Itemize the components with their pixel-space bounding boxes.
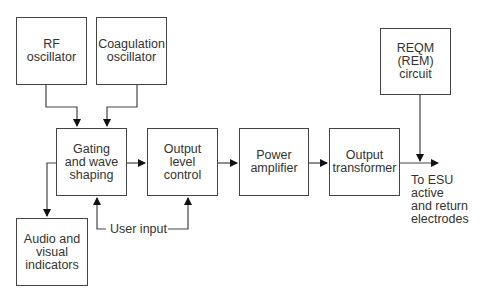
power-amplifier-label: Power amplifier xyxy=(250,149,297,175)
output-transformer-label: Output transformer xyxy=(333,149,397,175)
output-destination-label: To ESU active and return electrodes xyxy=(411,174,489,226)
power-amplifier-block: Power amplifier xyxy=(239,128,309,196)
output-transformer-block: Output transformer xyxy=(329,128,400,196)
coagulation-oscillator-label: Coagulation oscillator xyxy=(98,38,165,64)
rf-oscillator-block: RF oscillator xyxy=(16,17,87,85)
output-level-block: Output level control xyxy=(147,128,218,196)
output-level-label: Output level control xyxy=(164,143,202,182)
reqm-block: REQM (REM) circuit xyxy=(380,28,451,95)
user-input-label: User input xyxy=(110,223,167,236)
rf-oscillator-label: RF oscillator xyxy=(27,38,76,64)
reqm-label: REQM (REM) circuit xyxy=(397,42,435,81)
audio-visual-block: Audio and visual indicators xyxy=(16,218,88,286)
audio-visual-label: Audio and visual indicators xyxy=(24,233,80,272)
gating-block: Gating and wave shaping xyxy=(56,128,127,196)
gating-label: Gating and wave shaping xyxy=(65,143,119,182)
coagulation-oscillator-block: Coagulation oscillator xyxy=(96,17,167,85)
